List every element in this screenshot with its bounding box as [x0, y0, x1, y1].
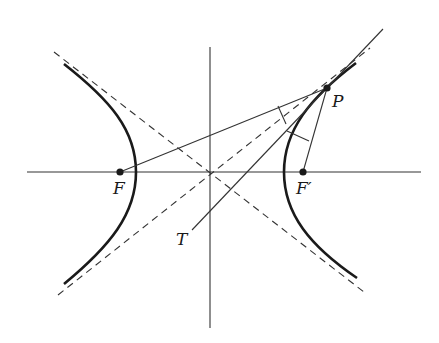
hyperbola-left-branch: [64, 64, 136, 284]
label-P: P: [331, 91, 344, 111]
label-Fprime: F′: [295, 178, 312, 198]
label-F: F: [112, 178, 126, 198]
focus-F-dot: [116, 168, 123, 175]
hyperbola-diagram: F F′ P T: [0, 0, 439, 343]
focus-Fprime-dot: [299, 168, 306, 175]
segment-FP: [120, 88, 327, 172]
label-T: T: [176, 229, 189, 249]
point-P-dot: [323, 84, 330, 91]
